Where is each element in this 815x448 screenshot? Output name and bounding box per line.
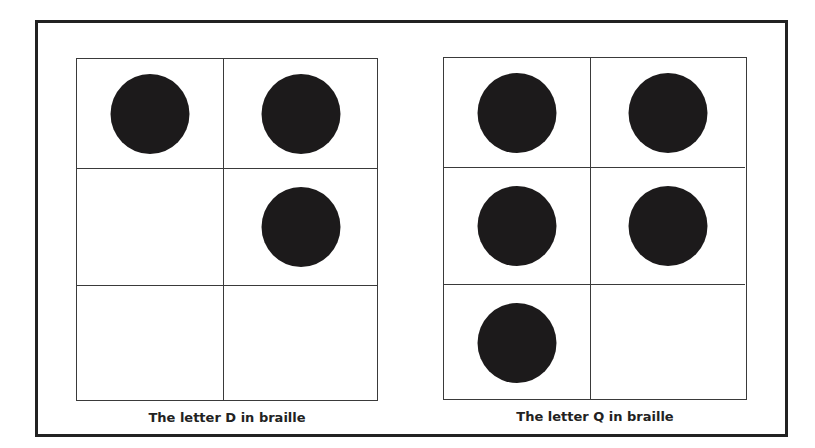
braille-dot-position-2 bbox=[444, 168, 591, 285]
raised-dot bbox=[262, 74, 341, 154]
braille-dot-position-1 bbox=[444, 58, 591, 168]
braille-cell-letter-d bbox=[76, 58, 378, 401]
braille-dot-position-6 bbox=[224, 286, 378, 401]
braille-dot-position-1 bbox=[77, 59, 224, 169]
raised-dot bbox=[629, 186, 708, 266]
braille-dot-position-6 bbox=[591, 285, 745, 400]
braille-dot-position-5 bbox=[224, 169, 378, 286]
braille-dot-position-3 bbox=[444, 285, 591, 400]
raised-dot bbox=[478, 186, 557, 266]
braille-dot-position-2 bbox=[77, 169, 224, 286]
braille-dot-position-5 bbox=[591, 168, 745, 285]
raised-dot bbox=[478, 73, 557, 153]
braille-dot-position-3 bbox=[77, 286, 224, 401]
braille-dot-position-4 bbox=[591, 58, 745, 168]
raised-dot bbox=[262, 187, 341, 267]
raised-dot bbox=[629, 73, 708, 153]
raised-dot bbox=[111, 74, 190, 154]
raised-dot bbox=[478, 303, 557, 383]
caption-letter-d: The letter D in braille bbox=[76, 410, 378, 425]
braille-cell-letter-q bbox=[443, 57, 747, 400]
braille-dot-position-4 bbox=[224, 59, 378, 169]
caption-letter-q: The letter Q in braille bbox=[443, 409, 747, 424]
